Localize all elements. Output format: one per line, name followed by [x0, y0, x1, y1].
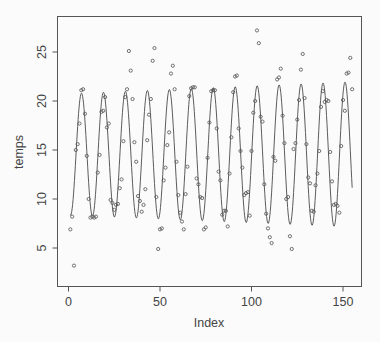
data-point [169, 72, 172, 75]
x-axis-ticks [69, 287, 344, 292]
data-point [131, 97, 134, 100]
data-point [268, 236, 271, 239]
x-tick-label-100: 100 [241, 295, 262, 309]
data-point [257, 42, 260, 45]
data-point [308, 182, 311, 185]
y-tick-label-25: 25 [35, 45, 49, 59]
data-point [127, 49, 130, 52]
data-point [288, 235, 291, 238]
data-point [146, 139, 149, 142]
data-point [122, 140, 125, 143]
data-point [135, 160, 138, 163]
data-point [164, 166, 167, 169]
data-point [270, 242, 273, 245]
data-points [69, 29, 354, 267]
y-tick-label-10: 10 [35, 192, 49, 206]
data-point [171, 64, 174, 67]
data-point [252, 111, 255, 114]
data-point [157, 247, 160, 250]
data-point [232, 91, 235, 94]
data-point [215, 127, 218, 130]
y-tick-labels: 5 10 15 20 25 [35, 45, 49, 251]
data-point [153, 46, 156, 49]
x-axis-title: Index [194, 316, 225, 330]
data-point [226, 225, 229, 228]
data-point [166, 144, 169, 147]
data-point [184, 193, 187, 196]
data-point [133, 141, 136, 144]
data-point [301, 52, 304, 55]
data-point [107, 122, 110, 125]
data-point [140, 210, 143, 213]
data-point [279, 67, 282, 70]
data-point [78, 122, 81, 125]
data-point [266, 227, 269, 230]
x-tick-label-150: 150 [333, 295, 354, 309]
data-point [120, 178, 123, 181]
data-point [144, 188, 147, 191]
chart-screenshot: 0 50 100 150 5 10 15 20 25 Index temps [0, 0, 380, 342]
data-point [173, 88, 176, 91]
data-point [151, 59, 154, 62]
data-point [98, 153, 101, 156]
data-point [182, 228, 185, 231]
data-point [149, 97, 152, 100]
y-axis-ticks [53, 52, 58, 248]
data-point [349, 56, 352, 59]
data-point [129, 69, 132, 72]
data-point [71, 215, 74, 218]
data-point [255, 29, 258, 32]
plot-frame [58, 17, 362, 287]
x-tick-label-0: 0 [65, 295, 72, 309]
data-point [72, 264, 75, 267]
data-point [338, 211, 341, 214]
x-tick-label-50: 50 [153, 295, 167, 309]
data-point [118, 187, 121, 190]
scatter-plot: 0 50 100 150 5 10 15 20 25 Index temps [0, 0, 380, 342]
data-point [292, 147, 295, 150]
data-point [168, 131, 171, 134]
data-point [299, 68, 302, 71]
y-axis-title: temps [12, 135, 26, 169]
data-point [351, 88, 354, 91]
data-point [274, 159, 277, 162]
data-point [248, 214, 251, 217]
x-tick-labels: 0 50 100 150 [65, 295, 353, 309]
data-point [237, 127, 240, 130]
data-point [180, 220, 183, 223]
data-point [142, 203, 145, 206]
data-point [330, 180, 333, 183]
data-point [125, 88, 128, 91]
y-tick-label-5: 5 [35, 244, 49, 251]
y-tick-label-15: 15 [35, 143, 49, 157]
data-point [343, 109, 346, 112]
data-point [69, 228, 72, 231]
y-tick-label-20: 20 [35, 94, 49, 108]
data-point [186, 165, 189, 168]
data-point [329, 150, 332, 153]
data-point [290, 247, 293, 250]
